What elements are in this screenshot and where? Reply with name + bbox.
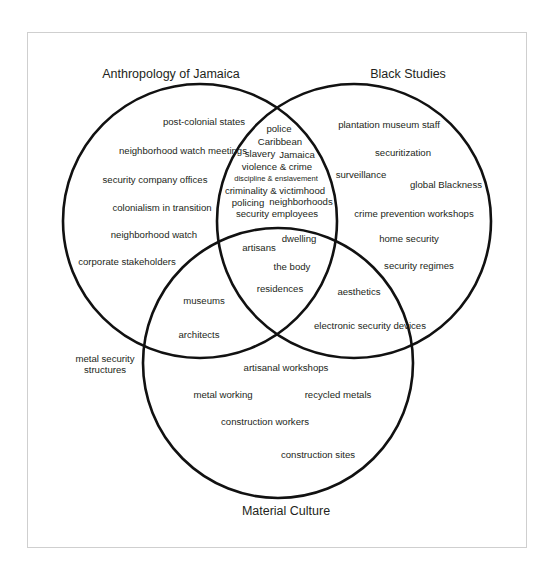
region-item: residences [257,283,304,294]
region-item: violence & crime [242,161,312,172]
region-item: metal working [193,389,252,400]
region-item: construction sites [281,449,355,460]
region-item: architects [178,329,219,340]
region-item: security employees [236,208,318,219]
region-item: criminality & victimhood [225,185,325,196]
region-item: post-colonial states [163,116,245,127]
region-item: structures [84,364,126,375]
set-title-black-studies: Black Studies [370,67,446,81]
region-item: surveillance [336,169,387,180]
region-material-culture-only: artisanal workshopsmetal workingrecycled… [193,362,371,460]
region-item: discipline & enslavement [234,174,318,183]
region-item: Caribbean [258,136,302,147]
region-item: recycled metals [305,389,372,400]
region-item: plantation museum staff [338,119,440,130]
region-item: colonialism in transition [112,202,211,213]
region-all-three: dwellingartisansthe bodyresidences [242,233,316,294]
region-item: museums [183,295,225,306]
venn-diagram: Anthropology of JamaicaBlack StudiesMate… [0,0,554,575]
region-item: artisans [242,242,276,253]
region-item: home security [379,233,439,244]
region-item: security regimes [384,260,454,271]
region-item: crime prevention workshops [354,208,474,219]
region-item: Jamaica [279,149,315,160]
region-anthropology-and-black-studies: policeCaribbeanslaveryJamaicaviolence & … [225,123,333,219]
region-item: slavery [245,148,276,159]
region-item: corporate stakeholders [78,256,176,267]
region-item: policing [232,197,265,208]
region-item: neighborhood watch [111,229,197,240]
region-outside: metal securitystructures [75,353,134,375]
region-item: securitization [375,147,431,158]
region-item: artisanal workshops [244,362,329,373]
region-anthropology-only: post-colonial statesneighborhood watch m… [78,116,247,267]
region-item: neighborhood watch meetings [119,145,247,156]
region-labels: post-colonial statesneighborhood watch m… [75,116,482,460]
region-item: dwelling [282,233,317,244]
region-item: neighborhoods [269,196,333,207]
region-item: the body [274,261,311,272]
region-item: electronic security devices [314,320,426,331]
region-item: aesthetics [337,286,380,297]
region-item: police [266,123,291,134]
region-item: security company offices [103,174,208,185]
region-anthropology-and-material-culture: museumsarchitects [178,295,225,340]
region-black-studies-and-material-culture: aestheticselectronic security devices [314,286,426,331]
region-item: global Blackness [410,179,482,190]
set-title-anthropology: Anthropology of Jamaica [102,67,240,81]
region-item: metal security [75,353,134,364]
region-black-studies-only: plantation museum staffsecuritizationsur… [336,119,483,271]
region-item: construction workers [221,416,309,427]
set-title-material-culture: Material Culture [242,504,330,518]
